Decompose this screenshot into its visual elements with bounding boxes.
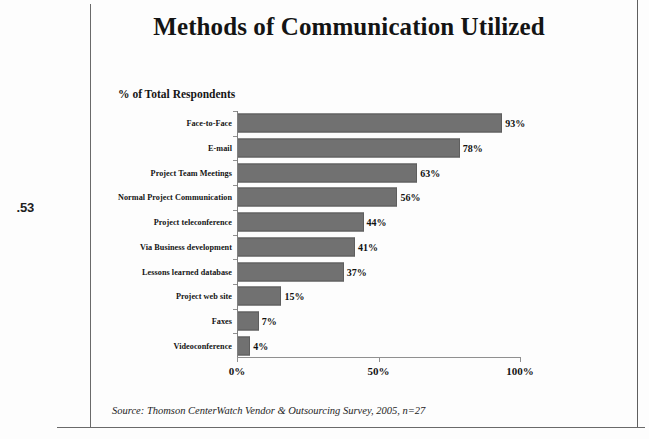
bar-row: Face-to-Face93% <box>237 111 520 136</box>
margin-page-number: .53 <box>0 200 34 215</box>
category-label: Normal Project Communication <box>0 193 232 202</box>
bar-row: Project teleconference44% <box>237 210 520 235</box>
bar-value-label: 4% <box>253 340 268 351</box>
bar-row: Lessons learned database37% <box>237 259 520 284</box>
bar-value-label: 78% <box>463 143 483 154</box>
x-axis-tick-label: 0% <box>229 365 246 377</box>
bar <box>238 287 281 306</box>
bar-row: Project Team Meetings63% <box>237 160 520 185</box>
category-label: Project web site <box>0 292 232 301</box>
y-axis-tick <box>233 210 237 211</box>
scanned-page: .53 Methods of Communication Utilized % … <box>0 0 649 439</box>
plot-area: Face-to-Face93%E-mail78%Project Team Mee… <box>237 111 520 358</box>
bar-row: Normal Project Communication56% <box>237 185 520 210</box>
category-label: E-mail <box>0 144 232 153</box>
bar-row: Project web site15% <box>237 284 520 309</box>
x-axis-tick <box>379 357 380 362</box>
category-label: Project teleconference <box>0 218 232 227</box>
bar-row: E-mail78% <box>237 136 520 161</box>
bar-value-label: 63% <box>420 167 440 178</box>
bar <box>238 188 397 207</box>
bar-value-label: 15% <box>284 291 304 302</box>
page-border-right <box>637 0 638 428</box>
bar <box>238 114 502 133</box>
y-axis-tick <box>233 185 237 186</box>
x-axis-tick-label: 100% <box>506 365 534 377</box>
page-border-left <box>90 4 91 428</box>
bar-value-label: 44% <box>367 217 387 228</box>
y-axis-tick <box>233 259 237 260</box>
bar-value-label: 56% <box>400 192 420 203</box>
category-label: Project Team Meetings <box>0 168 232 177</box>
x-axis-tick-label: 50% <box>368 365 390 377</box>
category-label: Lessons learned database <box>0 267 232 276</box>
category-label: Via Business development <box>0 242 232 251</box>
bar <box>238 139 460 158</box>
category-label: Videoconference <box>0 341 232 350</box>
y-axis-tick <box>233 309 237 310</box>
y-axis-tick <box>233 111 237 112</box>
y-axis-tick <box>233 284 237 285</box>
bar <box>238 237 355 256</box>
bar-value-label: 41% <box>358 241 378 252</box>
bar <box>238 163 417 182</box>
bar-value-label: 93% <box>505 118 525 129</box>
y-axis-tick <box>233 333 237 334</box>
bar-value-label: 37% <box>347 266 367 277</box>
page-border-bottom <box>57 427 645 428</box>
x-axis-tick <box>237 357 238 362</box>
x-axis-tick <box>520 357 521 362</box>
category-label: Face-to-Face <box>0 119 232 128</box>
bar-value-label: 7% <box>262 315 277 326</box>
chart-subtitle: % of Total Respondents <box>118 88 235 100</box>
y-axis-tick <box>233 160 237 161</box>
bar-row: Via Business development41% <box>237 235 520 260</box>
bar <box>238 213 364 232</box>
category-label: Faxes <box>0 316 232 325</box>
source-note: Source: Thomson CenterWatch Vendor & Out… <box>112 405 425 416</box>
bar-row: Faxes7% <box>237 309 520 334</box>
chart-title: Methods of Communication Utilized <box>108 13 590 41</box>
bar-row: Videoconference4% <box>237 333 520 358</box>
bar <box>238 311 259 330</box>
y-axis-tick <box>233 136 237 137</box>
y-axis-tick <box>233 235 237 236</box>
bar <box>238 336 250 355</box>
bar <box>238 262 344 281</box>
